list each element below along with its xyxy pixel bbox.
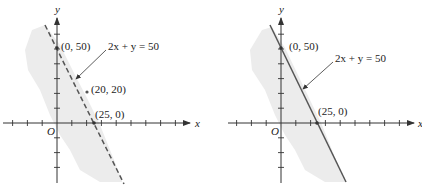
test-point-label: (20, 20)	[91, 83, 126, 96]
y-intercept-label: (0, 50)	[289, 40, 319, 53]
origin-label: O	[271, 125, 279, 137]
y-axis-label: y	[278, 3, 284, 15]
intercept-point-x	[92, 121, 96, 125]
left-graph: y x O (0, 50) (25, 0) (20, 20) 2x + y = …	[3, 3, 200, 184]
inequality-graphs: y x O (0, 50) (25, 0) (20, 20) 2x + y = …	[0, 0, 422, 193]
equation-label: 2x + y = 50	[335, 52, 386, 64]
x-axis-label: x	[194, 117, 200, 129]
y-intercept-label: (0, 50)	[61, 40, 91, 53]
x-axis-label: x	[417, 117, 422, 129]
test-point	[85, 90, 88, 93]
right-graph: y x O (0, 50) (25, 0) 2x + y = 50	[228, 3, 422, 183]
x-intercept-label: (25, 0)	[318, 105, 348, 118]
equation-pointer-arrow	[76, 50, 106, 79]
x-intercept-label: (25, 0)	[95, 108, 125, 121]
y-axis-label: y	[54, 3, 60, 15]
intercept-point-y	[55, 46, 59, 50]
equation-label: 2x + y = 50	[108, 40, 159, 52]
intercept-point-x	[315, 121, 319, 125]
equation-pointer-arrow	[303, 62, 333, 89]
origin-label: O	[47, 125, 55, 137]
intercept-point-y	[279, 46, 283, 50]
